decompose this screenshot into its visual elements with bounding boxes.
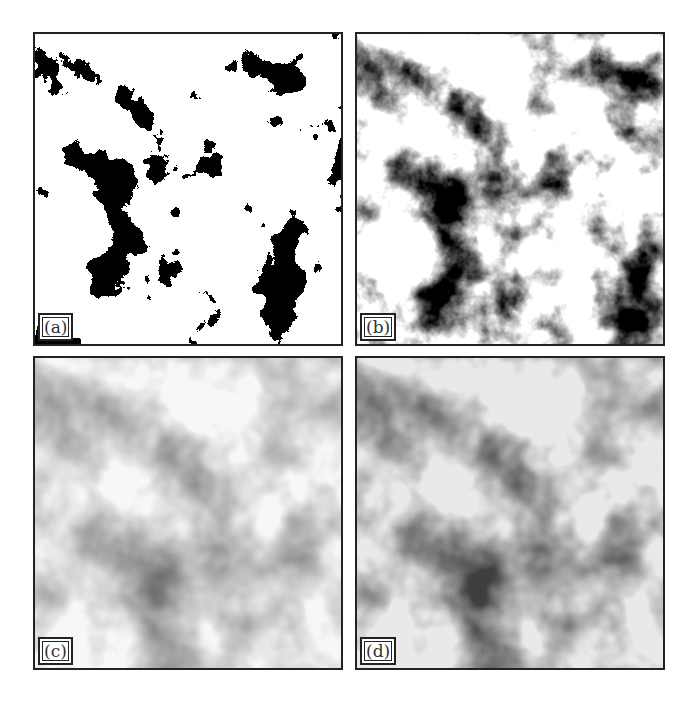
panel-label-b: (b): [360, 313, 396, 341]
panel-label-d: (d): [360, 637, 396, 665]
panel-label-a: (a): [38, 313, 73, 341]
cluster-image-d: [357, 358, 663, 668]
cluster-image-b: [357, 34, 663, 344]
panel-b: (b): [355, 32, 665, 346]
panel-a: (a): [33, 32, 343, 346]
panel-label-c: (c): [38, 637, 73, 665]
cluster-image-c: [35, 358, 341, 668]
cluster-image-a: [35, 34, 341, 344]
panel-d: (d): [355, 356, 665, 670]
panel-c: (c): [33, 356, 343, 670]
